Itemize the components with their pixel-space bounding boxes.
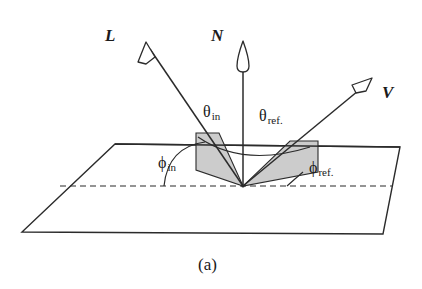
phi-ref-symbol: ϕ	[309, 159, 317, 176]
view-vector-arrowhead	[352, 78, 372, 93]
theta-in-label: θin	[203, 104, 220, 120]
origin-point	[241, 184, 244, 187]
phi-ref-subscript: ref.	[318, 166, 333, 178]
light-vector-label: L	[105, 27, 115, 44]
light-vector-arrowhead	[138, 42, 155, 64]
phi-in-symbol: ϕ	[158, 154, 166, 171]
theta-in-symbol: θ	[203, 103, 211, 120]
phi-in-subscript: in	[167, 161, 176, 173]
theta-ref-label: θref.	[259, 108, 283, 124]
theta-ref-subscript: ref.	[268, 114, 283, 126]
brdf-geometry-figure: L N V θin θref. ϕin ϕref. (a)	[0, 0, 422, 289]
phi-ref-label: ϕref.	[309, 160, 333, 176]
normal-vector-label: N	[211, 27, 223, 44]
normal-vector-arrowhead	[237, 41, 249, 72]
phi-in-label: ϕin	[158, 155, 176, 171]
theta-ref-symbol: θ	[259, 107, 267, 124]
view-vector-label: V	[382, 84, 393, 101]
theta-in-subscript: in	[212, 110, 221, 122]
figure-caption: (a)	[198, 256, 217, 273]
